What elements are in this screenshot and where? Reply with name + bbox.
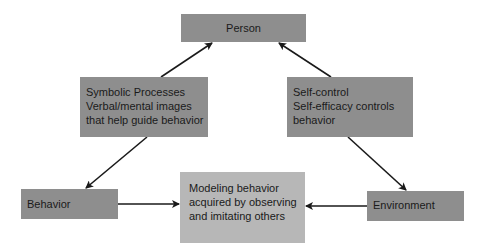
arrow-symbolic-to-behavior xyxy=(86,137,147,188)
node-modeling: Modeling behavior acquired by observing … xyxy=(180,172,305,243)
node-environment-label: Environment xyxy=(373,199,435,211)
node-person: Person xyxy=(181,14,306,42)
node-symbolic-line-3: that help guide behavior xyxy=(86,113,208,127)
node-person-label: Person xyxy=(226,22,261,34)
node-symbolic-processes: Symbolic Processes Verbal/mental images … xyxy=(80,77,208,137)
arrow-symbolic-to-person xyxy=(161,43,212,77)
node-behavior-label: Behavior xyxy=(27,198,70,210)
node-symbolic-line-1: Symbolic Processes xyxy=(86,85,208,99)
node-selfcontrol-line-2: Self-efficacy controls xyxy=(293,99,413,113)
arrow-selfcontrol-to-person xyxy=(279,43,331,77)
node-behavior: Behavior xyxy=(21,189,118,219)
node-modeling-line-1: Modeling behavior xyxy=(189,181,305,195)
node-environment: Environment xyxy=(367,191,464,221)
node-selfcontrol-line-1: Self-control xyxy=(293,85,413,99)
node-modeling-line-2: acquired by observing xyxy=(189,195,305,209)
node-self-control: Self-control Self-efficacy controls beha… xyxy=(287,77,413,137)
node-symbolic-line-2: Verbal/mental images xyxy=(86,99,208,113)
node-selfcontrol-line-3: behavior xyxy=(293,113,413,127)
node-modeling-line-3: and imitating others xyxy=(189,209,305,223)
arrow-selfcontrol-to-environment xyxy=(348,137,406,190)
